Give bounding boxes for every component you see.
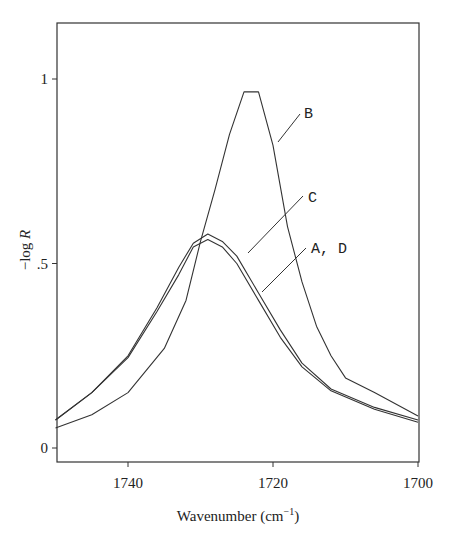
- y-tick-label: 1: [41, 71, 49, 87]
- y-axis-ticks: 0.51: [37, 71, 57, 456]
- curve-label: A, D: [311, 241, 347, 258]
- x-tick-label: 1740: [113, 475, 143, 491]
- x-axis-label-superscript: −1: [284, 506, 295, 517]
- y-tick-label: 0: [41, 440, 49, 456]
- leader-line: [248, 196, 303, 253]
- leader-line: [278, 114, 300, 142]
- plot-frame: [57, 23, 419, 462]
- data-series: [56, 92, 419, 428]
- x-axis-label-text: Wavenumber (cm: [177, 508, 284, 525]
- x-tick-label: 1700: [403, 475, 433, 491]
- x-axis-label: Wavenumber (cm−1): [177, 506, 299, 525]
- curve-label: C: [308, 190, 317, 207]
- y-axis-label-italic: R: [17, 230, 33, 240]
- series-b: [56, 92, 419, 428]
- x-axis-label-close: ): [294, 508, 299, 525]
- spectrum-chart: 0.51 174017201700 BCA, D Wavenumber (cm−…: [0, 0, 449, 539]
- x-tick-label: 1720: [258, 475, 288, 491]
- y-axis-label-text: −log: [17, 239, 33, 270]
- series-a-d: [56, 240, 419, 423]
- series-c: [56, 234, 419, 420]
- x-axis-ticks: 174017201700: [113, 462, 433, 491]
- y-tick-label: .5: [37, 256, 48, 272]
- y-axis-label: −log R: [17, 230, 33, 271]
- curve-label: B: [304, 106, 313, 123]
